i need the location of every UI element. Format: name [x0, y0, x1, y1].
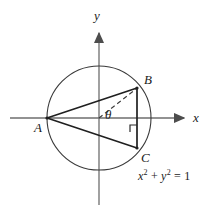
point-A-dot	[45, 116, 48, 119]
equation-plus: +	[151, 169, 158, 183]
point-B-dot	[135, 86, 138, 89]
circle-equation-label: x2 + y2 = 1	[138, 168, 190, 184]
point-label-a: A	[34, 120, 42, 136]
equation-exp-y: 2	[167, 168, 171, 177]
equation-exp-x: 2	[144, 168, 148, 177]
x-axis-label: x	[193, 110, 199, 126]
point-label-b: B	[144, 72, 152, 88]
equation-rhs: 1	[184, 169, 190, 183]
y-axis-label: y	[94, 8, 100, 24]
point-C-dot	[135, 146, 138, 149]
angle-theta-label: θ	[105, 107, 111, 123]
point-label-c: C	[141, 150, 150, 166]
equation-equals: =	[174, 169, 181, 183]
